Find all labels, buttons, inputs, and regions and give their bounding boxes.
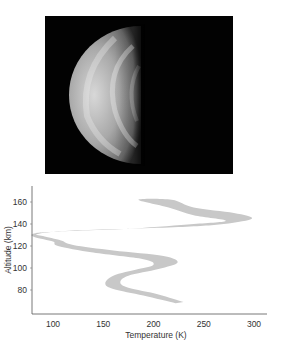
temperature-band bbox=[31, 199, 252, 303]
y-tick-label: 100 bbox=[13, 263, 27, 273]
y-tick-label: 160 bbox=[13, 197, 27, 207]
x-tick-label: 250 bbox=[197, 319, 211, 329]
y-tick-label: 140 bbox=[13, 219, 27, 229]
temperature-altitude-chart: 80100120140160 100150200250300 Temperatu… bbox=[0, 0, 285, 347]
x-tick-label: 300 bbox=[247, 319, 261, 329]
y-tick-label: 120 bbox=[13, 241, 27, 251]
x-tick-label: 150 bbox=[96, 319, 110, 329]
y-tick-labels: 80100120140160 bbox=[13, 197, 32, 295]
x-tick-labels: 100150200250300 bbox=[46, 319, 261, 329]
x-axis-label: Temperature (K) bbox=[125, 330, 187, 340]
y-axis-label: Altitude (km) bbox=[3, 226, 13, 274]
y-tick-label: 80 bbox=[18, 285, 28, 295]
x-tick-label: 100 bbox=[46, 319, 60, 329]
x-tick-label: 200 bbox=[146, 319, 160, 329]
